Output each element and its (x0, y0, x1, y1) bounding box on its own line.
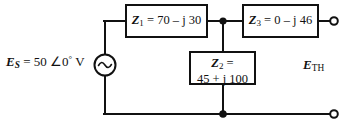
source-voltage-label: ES = 50 ∠0° V (6, 55, 85, 71)
angle-icon: ∠ (50, 54, 62, 69)
source-symbol-letter: E (6, 54, 15, 69)
junction-node-bottom (219, 110, 227, 118)
z1-equals: = (144, 13, 157, 27)
z3-equals: = (261, 13, 274, 27)
output-terminal-top (330, 17, 338, 25)
eth-symbol-letter: E (303, 57, 312, 72)
eth-symbol-subscript: TH (312, 63, 324, 73)
degree-icon: ° (68, 54, 72, 64)
z2-line1: Z2 = (190, 56, 255, 72)
source-magnitude: 50 (34, 54, 47, 69)
impedance-label-z1: Z1 = 70 – j 30 (126, 13, 207, 29)
circuit-diagram: ES = 50 ∠0° V Z1 = 70 – j 30 Z3 = 0 – j … (0, 0, 344, 125)
source-equals: = (20, 54, 34, 69)
impedance-label-z3: Z3 = 0 – j 46 (243, 13, 318, 29)
junction-node-top (219, 17, 226, 24)
z2-value: 45 + j 100 (190, 72, 255, 87)
thevenin-voltage-label: ETH (303, 58, 324, 74)
z2-symbol: Z (211, 56, 219, 70)
z1-value: 70 – j 30 (157, 13, 201, 27)
source-unit: V (75, 54, 84, 69)
impedance-label-z2: Z2 = 45 + j 100 (190, 56, 255, 87)
z2-equals: = (223, 56, 233, 70)
output-terminal-bottom (330, 110, 338, 118)
z3-value: 0 – j 46 (274, 13, 312, 27)
